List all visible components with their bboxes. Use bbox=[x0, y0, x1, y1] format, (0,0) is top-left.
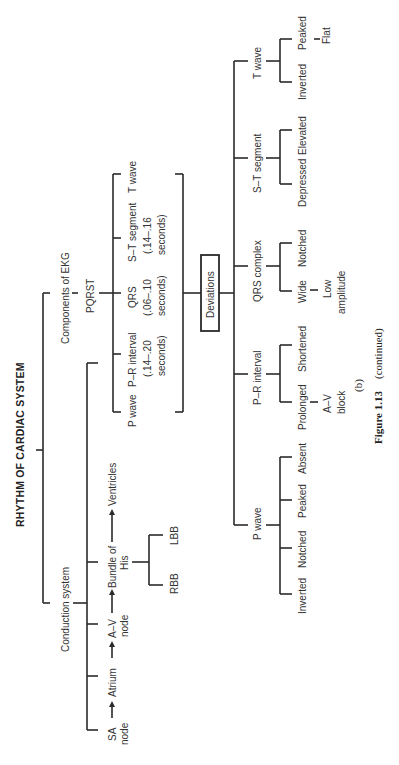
root-bracket bbox=[36, 293, 50, 603]
qrs-low-amplitude-2: amplitude bbox=[336, 270, 347, 314]
svg-text:P wave: P wave bbox=[252, 507, 263, 540]
svg-text:QRS complex: QRS complex bbox=[252, 240, 263, 302]
component-item-p-wave: P wave bbox=[127, 394, 138, 427]
svg-text:P–R interval: P–R interval bbox=[252, 351, 263, 405]
deviation-group-qrs-complex: QRS complex Wide Notched Low amplitude bbox=[252, 230, 347, 314]
diagram-title: RHYTHM OF CARDIAC SYSTEM bbox=[14, 362, 26, 527]
svg-text:seconds): seconds) bbox=[156, 214, 167, 255]
svg-text:P wave: P wave bbox=[127, 394, 138, 427]
components-bracket bbox=[113, 174, 121, 412]
node-atrium: Atrium bbox=[107, 668, 118, 697]
pr-av-block-2: block bbox=[336, 390, 347, 414]
svg-text:P–R interval: P–R interval bbox=[127, 333, 138, 387]
components-label: Components of EKG bbox=[60, 252, 71, 344]
pr-shortened: Shortened bbox=[297, 326, 308, 372]
st-depressed: Depressed bbox=[297, 159, 308, 207]
figure-caption: (b) Figure 1.13 (continued) bbox=[352, 328, 385, 444]
node-bundle-of-his-2: His bbox=[119, 556, 130, 570]
node-rbb: RBB bbox=[169, 573, 180, 594]
pr-prolonged: Prolonged bbox=[297, 384, 308, 430]
t-wave-flat: Flat bbox=[321, 27, 332, 44]
t-wave-peaked: Peaked bbox=[297, 16, 308, 50]
qrs-notched: Notched bbox=[297, 230, 308, 267]
t-wave-inverted: Inverted bbox=[297, 64, 308, 100]
svg-text:seconds): seconds) bbox=[156, 335, 167, 376]
conduction-branch: Conduction system bbox=[60, 363, 98, 730]
node-ventricles: Ventricles bbox=[107, 463, 118, 506]
svg-text:(.14–.20: (.14–.20 bbox=[142, 340, 153, 377]
p-wave-peaked: Peaked bbox=[297, 484, 308, 518]
conduction-path: SA node Atrium A–V node Bundle of His Ve… bbox=[107, 463, 180, 745]
node-av: A–V bbox=[107, 619, 118, 638]
deviation-group-st-segment: S–T segment Depressed Elevated bbox=[252, 116, 308, 207]
node-sa: SA bbox=[107, 727, 118, 741]
deviations-box: Deviations bbox=[201, 255, 234, 331]
svg-text:(.06–.10: (.06–.10 bbox=[142, 279, 153, 316]
caption-part: (b) bbox=[352, 379, 365, 392]
component-item-pr-interval: P–R interval (.14–.20 seconds) bbox=[127, 333, 167, 387]
component-item-st-segment: S–T segment (.14–.16 seconds) bbox=[127, 202, 167, 262]
pqrst-label: PQRST bbox=[85, 279, 96, 313]
p-wave-absent: Absent bbox=[297, 443, 308, 474]
deviations-label: Deviations bbox=[205, 271, 216, 318]
qrs-wide: Wide bbox=[297, 280, 308, 303]
svg-text:T wave: T wave bbox=[127, 161, 138, 193]
components-closing-bracket bbox=[175, 174, 201, 412]
conduction-label: Conduction system bbox=[60, 567, 71, 652]
node-lbb: LBB bbox=[169, 526, 180, 545]
node-av-2: node bbox=[119, 614, 130, 637]
svg-text:S–T segment: S–T segment bbox=[252, 133, 263, 193]
svg-text:seconds): seconds) bbox=[156, 275, 167, 316]
pr-av-block: A–V bbox=[322, 394, 333, 413]
component-item-t-wave: T wave bbox=[127, 161, 138, 193]
st-elevated: Elevated bbox=[297, 116, 308, 155]
deviations-bracket bbox=[234, 61, 248, 525]
svg-text:S–T segment: S–T segment bbox=[127, 202, 138, 262]
p-wave-notched: Notched bbox=[297, 531, 308, 568]
svg-text:(.14–.16: (.14–.16 bbox=[142, 217, 153, 254]
p-wave-inverted: Inverted bbox=[297, 578, 308, 614]
cardiac-rhythm-tree-diagram: RHYTHM OF CARDIAC SYSTEM Components of E… bbox=[0, 0, 399, 765]
deviation-group-p-wave: P wave Inverted Notched Peaked Absent bbox=[252, 443, 308, 614]
node-bundle-of-his: Bundle of bbox=[107, 546, 118, 588]
node-sa-2: node bbox=[119, 722, 130, 745]
deviation-group-pr-interval: P–R interval Prolonged Shortened A–V blo… bbox=[252, 326, 347, 430]
caption-figure: Figure 1.13 bbox=[372, 391, 384, 444]
component-item-qrs: QRS (.06–.10 seconds) bbox=[127, 275, 167, 316]
svg-text:QRS: QRS bbox=[127, 286, 138, 308]
caption-note: (continued) bbox=[372, 328, 385, 379]
deviation-group-t-wave: T wave Inverted Peaked Flat bbox=[252, 16, 332, 100]
svg-text:T wave: T wave bbox=[252, 47, 263, 79]
qrs-low-amplitude: Low bbox=[322, 279, 333, 298]
